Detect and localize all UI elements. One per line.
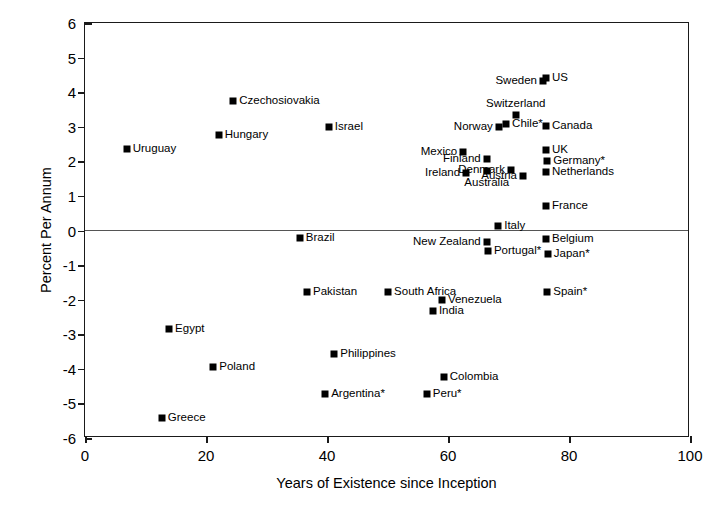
data-point-label: Pakistan [313, 286, 357, 298]
data-point-marker [544, 157, 551, 164]
x-tick-label: 40 [319, 447, 336, 464]
y-tick-mark [78, 161, 85, 163]
y-tick-mark [78, 403, 85, 405]
data-point-label: Argentina* [331, 388, 385, 400]
y-tick-label: 2 [68, 153, 76, 170]
data-point-marker [385, 288, 392, 295]
data-point-label: Israel [335, 121, 363, 133]
data-point-label: Canada [552, 120, 592, 132]
data-point-marker [484, 247, 491, 254]
data-point-marker [544, 288, 551, 295]
y-tick-label: -5 [63, 395, 76, 412]
y-tick-mark [78, 265, 85, 267]
data-point-marker [543, 75, 550, 82]
data-point-label: New Zealand [413, 236, 481, 248]
zero-reference-line [85, 230, 688, 231]
data-point-label: South Africa [394, 286, 456, 298]
data-point-label: Japan* [554, 248, 590, 260]
data-point-label: Italy [504, 220, 525, 232]
x-tick-label: 60 [440, 447, 457, 464]
data-point-label: India [439, 306, 464, 318]
x-tick-mark [690, 436, 692, 443]
y-tick-label: 4 [68, 84, 76, 101]
data-point-label: Norway [454, 121, 493, 133]
data-point-label: Egypt [175, 323, 204, 335]
data-point-marker [495, 123, 502, 130]
data-point-marker [304, 288, 311, 295]
x-tick-mark [206, 436, 208, 443]
data-point-marker [520, 172, 527, 179]
data-point-marker [296, 235, 303, 242]
y-tick-mark [78, 231, 85, 233]
data-point-marker [440, 373, 447, 380]
y-tick-mark [85, 23, 92, 25]
data-point-label: Chile* [512, 118, 543, 130]
y-tick-label: 1 [68, 187, 76, 204]
data-point-label: Greece [168, 413, 206, 425]
y-axis-title-wrap: Percent Per Annum [22, 22, 23, 437]
data-point-marker [166, 326, 173, 333]
plot-area: 6543210-1-2-3-4-5-6 020406080100 Uruguay… [84, 22, 689, 437]
data-point-label: Switzerland [486, 97, 545, 109]
data-point-label: Austria [481, 170, 517, 182]
data-point-label: Hungary [225, 129, 268, 141]
data-point-marker [158, 415, 165, 422]
data-point-label: Poland [219, 361, 255, 373]
data-point-label: Venezuela [448, 294, 502, 306]
data-point-marker [503, 120, 510, 127]
data-point-label: France [552, 200, 588, 212]
y-tick-label: -3 [63, 326, 76, 343]
data-point-label: Colombia [450, 371, 499, 383]
y-tick-mark [78, 369, 85, 371]
data-point-label: Netherlands [552, 167, 614, 179]
y-tick-label: -4 [63, 360, 76, 377]
y-tick-label: -6 [63, 430, 76, 447]
data-point-marker [495, 222, 502, 229]
data-point-label: Brazil [306, 233, 335, 245]
data-point-marker [322, 390, 329, 397]
y-tick-mark [78, 92, 85, 94]
y-tick-label: -1 [63, 257, 76, 274]
y-axis-title: Percent Per Annum [38, 140, 54, 320]
data-point-marker [543, 146, 550, 153]
y-tick-label: 6 [68, 15, 76, 32]
x-tick-mark [327, 436, 329, 443]
data-point-marker [325, 123, 332, 130]
y-tick-mark [78, 300, 85, 302]
data-point-label: Czechosiovakia [239, 95, 320, 107]
data-point-label: Uruguay [133, 143, 176, 155]
data-point-label: Peru* [433, 388, 462, 400]
x-axis-title: Years of Existence since Inception [84, 475, 689, 491]
data-point-marker [123, 146, 130, 153]
y-tick-mark [78, 58, 85, 60]
data-point-label: Sweden [495, 75, 537, 87]
data-point-marker [438, 296, 445, 303]
data-point-label: Portugal* [494, 245, 541, 257]
y-tick-mark [78, 196, 85, 198]
data-point-label: Ireland [425, 168, 460, 180]
x-tick-label: 0 [81, 447, 89, 464]
data-point-marker [331, 351, 338, 358]
x-tick-label: 100 [677, 447, 702, 464]
data-point-marker [423, 390, 430, 397]
data-point-marker [429, 308, 436, 315]
y-tick-label: 5 [68, 49, 76, 66]
data-point-marker [543, 169, 550, 176]
data-point-marker [215, 132, 222, 139]
data-point-marker [483, 155, 490, 162]
data-point-marker [544, 250, 551, 257]
y-tick-label: 3 [68, 118, 76, 135]
data-point-marker [230, 97, 237, 104]
y-tick-mark [78, 334, 85, 336]
y-tick-label: -2 [63, 291, 76, 308]
y-tick-label: 0 [68, 222, 76, 239]
data-point-label: Spain* [553, 286, 587, 298]
data-point-marker [543, 236, 550, 243]
scatter-chart-figure: Percent Per Annum 6543210-1-2-3-4-5-6 02… [0, 0, 718, 505]
data-point-marker [543, 122, 550, 129]
y-tick-mark [78, 127, 85, 129]
x-tick-mark [85, 436, 87, 443]
x-tick-label: 80 [561, 447, 578, 464]
data-point-marker [210, 363, 217, 370]
x-tick-mark [448, 436, 450, 443]
